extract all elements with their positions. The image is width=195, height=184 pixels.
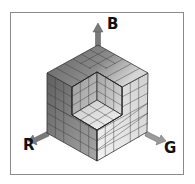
axis-label-r: R <box>23 138 35 153</box>
axis-label-b: B <box>107 17 118 32</box>
axis-label-g: G <box>164 141 176 156</box>
axis-arrow-g <box>145 131 166 145</box>
axis-arrow-b <box>93 23 103 46</box>
